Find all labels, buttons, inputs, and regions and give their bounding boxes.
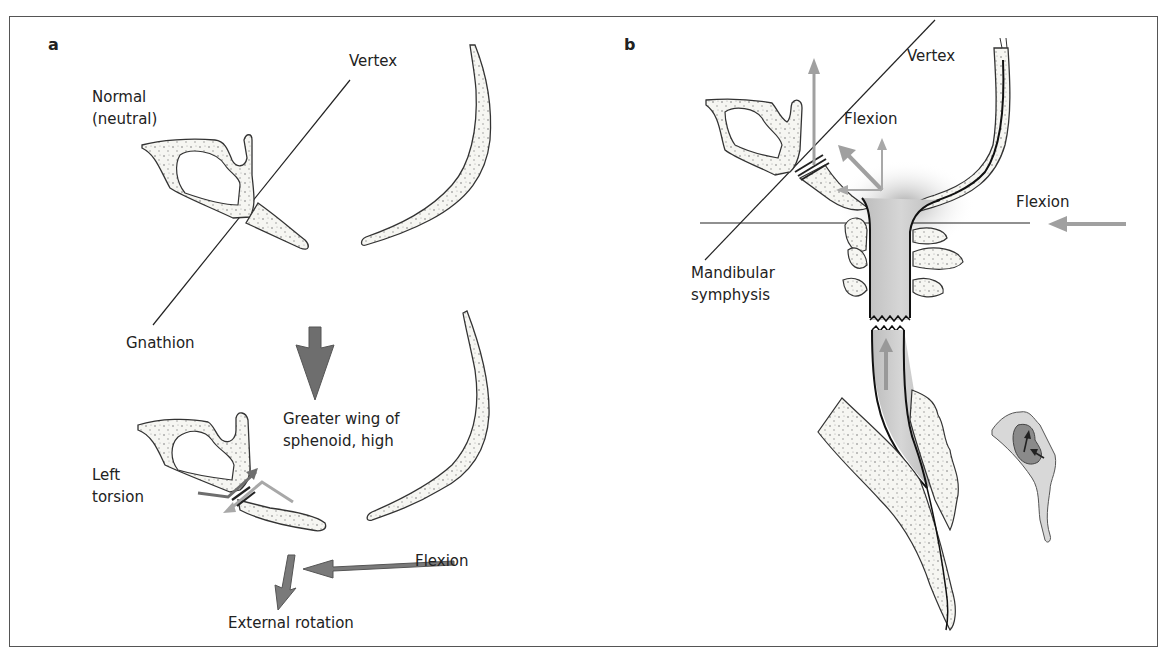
label-symphysis: symphysis xyxy=(691,284,770,306)
label-greater-wing: Greater wing of xyxy=(283,408,400,430)
label-left: Left xyxy=(92,464,120,486)
label-torsion: torsion xyxy=(92,486,144,508)
external-rotation-arrow-icon xyxy=(275,555,296,610)
cranial-bone-upper xyxy=(362,45,491,245)
down-arrow-icon xyxy=(296,327,334,400)
label-external-rotation: External rotation xyxy=(228,612,354,634)
sphenoid-flexion xyxy=(706,99,802,175)
greater-wing-normal xyxy=(246,203,308,249)
panel-b xyxy=(700,20,1126,630)
label-normal: Normal xyxy=(92,86,146,108)
sacrum-inset xyxy=(992,412,1056,542)
flexion-right-arrow-icon xyxy=(1048,216,1126,232)
anatomical-diagram xyxy=(0,0,1161,652)
sphenoid-normal xyxy=(142,135,254,218)
panel-a xyxy=(138,45,491,610)
label-sphenoid-high: sphenoid, high xyxy=(283,430,394,452)
label-gnathion: Gnathion xyxy=(126,332,195,354)
label-mandibular: Mandibular xyxy=(691,262,775,284)
label-flexion-a: Flexion xyxy=(415,550,469,572)
label-flexion-b-upper: Flexion xyxy=(844,108,898,130)
label-vertex-b: Vertex xyxy=(907,45,955,67)
label-vertex-a: Vertex xyxy=(349,50,397,72)
greater-wing-torsion xyxy=(238,500,326,531)
sphenoid-left-torsion xyxy=(138,413,250,492)
label-flexion-b-right: Flexion xyxy=(1016,191,1070,213)
panel-label-b: b xyxy=(624,34,635,56)
label-neutral: (neutral) xyxy=(92,108,157,130)
panel-label-a: a xyxy=(48,34,59,56)
